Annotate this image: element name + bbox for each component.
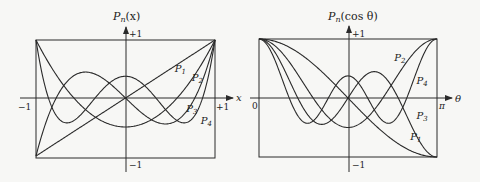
- curve-label-p3: P3: [416, 110, 429, 123]
- legendre-figure: Pn(x) +1 −1 −1 +1 x P1P2P3P4 Pn(cos θ) +…: [0, 0, 480, 182]
- curve-label-p4: P4: [200, 115, 212, 128]
- left-x-axis-label: x: [236, 92, 242, 103]
- curve-label-p4: P4: [416, 75, 428, 88]
- right-y-axis-label: Pn(cos θ): [327, 10, 378, 24]
- left-y-tick-top: +1: [129, 29, 142, 39]
- right-y-tick-top: +1: [352, 29, 365, 39]
- left-plot: Pn(x) +1 −1 −1 +1 x P1P2P3P4: [18, 10, 242, 172]
- curve-p2: [259, 39, 437, 128]
- curve-p4: [259, 39, 437, 123]
- curve-label-p3: P3: [185, 103, 198, 116]
- left-x-tick-min: −1: [18, 102, 31, 112]
- right-x-tick-min: 0: [252, 101, 258, 111]
- left-x-tick-max: +1: [216, 102, 229, 112]
- curve-label-p2: P2: [191, 72, 204, 85]
- right-plot: Pn(cos θ) +1 −1 0 π θ P1P2P3P4: [250, 10, 461, 172]
- left-y-axis-label: Pn(x): [112, 10, 140, 24]
- curve-label-p1: P1: [409, 131, 421, 144]
- right-x-tick-max: π: [438, 101, 446, 111]
- right-y-tick-bottom: −1: [352, 160, 365, 170]
- right-x-axis-label: θ: [455, 93, 461, 104]
- left-y-tick-bottom: −1: [129, 160, 142, 170]
- curve-label-p2: P2: [393, 52, 406, 65]
- curve-label-p1: P1: [174, 63, 186, 76]
